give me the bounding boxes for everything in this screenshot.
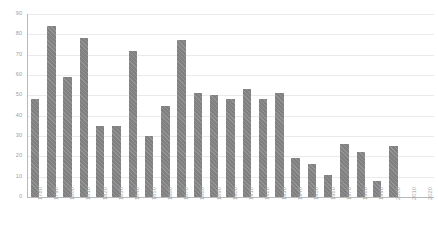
- x-tick-label: 1800: [70, 187, 76, 200]
- bar-slot[interactable]: [31, 14, 39, 197]
- x-tick-label: 1950: [314, 187, 320, 200]
- x-tick-label: 2010: [412, 187, 418, 200]
- bar-series: [27, 14, 434, 197]
- x-axis-tick-labels: 1780179018001810182018301840185018601870…: [27, 198, 434, 244]
- y-axis-tick-labels: 0102030405060708090: [0, 0, 24, 245]
- x-tick-label: 2000: [396, 187, 402, 200]
- bar-slot[interactable]: [243, 14, 251, 197]
- bar-slot[interactable]: [389, 14, 397, 197]
- bar[interactable]: [194, 93, 202, 197]
- x-tick-label: 1820: [103, 187, 109, 200]
- x-tick-label: 2020: [428, 187, 434, 200]
- bar-slot[interactable]: [63, 14, 71, 197]
- y-tick-label: 70: [0, 52, 22, 58]
- x-tick-label: 1870: [184, 187, 190, 200]
- x-tick-label: 1880: [200, 187, 206, 200]
- y-tick-label: 0: [0, 194, 22, 200]
- y-tick-label: 60: [0, 72, 22, 78]
- y-tick-label: 30: [0, 133, 22, 139]
- bar-slot[interactable]: [340, 14, 348, 197]
- bar[interactable]: [129, 51, 137, 197]
- x-tick-label: 1790: [54, 187, 60, 200]
- x-tick-label: 1900: [233, 187, 239, 200]
- x-tick-label: 1960: [331, 187, 337, 200]
- x-tick-label: 1840: [135, 187, 141, 200]
- bar-slot[interactable]: [275, 14, 283, 197]
- bar-slot[interactable]: [259, 14, 267, 197]
- x-tick-label: 1830: [119, 187, 125, 200]
- bar-slot[interactable]: [291, 14, 299, 197]
- bar-slot[interactable]: [177, 14, 185, 197]
- bar-slot[interactable]: [112, 14, 120, 197]
- bar-chart: 0102030405060708090 17801790180018101820…: [0, 0, 438, 245]
- bar-slot[interactable]: [47, 14, 55, 197]
- y-tick-label: 90: [0, 11, 22, 17]
- bar[interactable]: [63, 77, 71, 197]
- bar-slot[interactable]: [308, 14, 316, 197]
- bar-slot[interactable]: [210, 14, 218, 197]
- bar-slot[interactable]: [422, 14, 430, 197]
- bar[interactable]: [47, 26, 55, 197]
- x-tick-label: 1990: [379, 187, 385, 200]
- bar-slot[interactable]: [226, 14, 234, 197]
- x-tick-label: 1970: [347, 187, 353, 200]
- y-tick-label: 20: [0, 153, 22, 159]
- bar-slot[interactable]: [357, 14, 365, 197]
- bar-slot[interactable]: [373, 14, 381, 197]
- x-tick-label: 1930: [282, 187, 288, 200]
- bar-slot[interactable]: [194, 14, 202, 197]
- bar-slot[interactable]: [145, 14, 153, 197]
- x-tick-label: 1910: [249, 187, 255, 200]
- y-tick-label: 80: [0, 31, 22, 37]
- bar[interactable]: [80, 38, 88, 197]
- bar[interactable]: [161, 106, 169, 198]
- bar-slot[interactable]: [80, 14, 88, 197]
- bar-slot[interactable]: [96, 14, 104, 197]
- y-tick-label: 50: [0, 92, 22, 98]
- bar[interactable]: [275, 93, 283, 197]
- bar[interactable]: [243, 89, 251, 197]
- y-tick-label: 40: [0, 113, 22, 119]
- x-tick-label: 1810: [86, 187, 92, 200]
- bar[interactable]: [31, 99, 39, 197]
- bar-slot[interactable]: [324, 14, 332, 197]
- y-tick-label: 10: [0, 174, 22, 180]
- bar-slot[interactable]: [129, 14, 137, 197]
- bar[interactable]: [226, 99, 234, 197]
- x-tick-label: 1860: [168, 187, 174, 200]
- bar[interactable]: [177, 40, 185, 197]
- x-tick-label: 1940: [298, 187, 304, 200]
- bar-slot[interactable]: [405, 14, 413, 197]
- bar[interactable]: [210, 95, 218, 197]
- x-tick-label: 1890: [217, 187, 223, 200]
- x-tick-label: 1850: [152, 187, 158, 200]
- bar-slot[interactable]: [161, 14, 169, 197]
- x-tick-label: 1920: [265, 187, 271, 200]
- x-tick-label: 1780: [38, 187, 44, 200]
- x-tick-label: 1980: [363, 187, 369, 200]
- bar[interactable]: [259, 99, 267, 197]
